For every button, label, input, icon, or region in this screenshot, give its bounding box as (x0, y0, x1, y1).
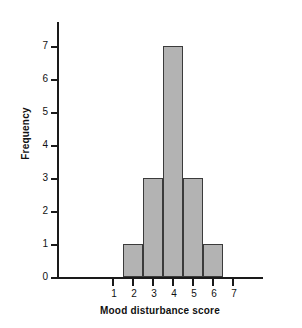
histogram-bar (203, 244, 223, 277)
x-tick-4 (172, 279, 174, 286)
x-tick-label-7: 7 (226, 288, 242, 299)
x-tick-2 (132, 279, 134, 286)
histogram-chart: Frequency 7 6 5 4 3 2 1 0 1 2 3 4 5 6 7 … (0, 0, 302, 328)
x-tick-label-4: 4 (166, 288, 182, 299)
histogram-bar (123, 244, 143, 277)
x-tick-label-5: 5 (186, 288, 202, 299)
x-tick-label-3: 3 (146, 288, 162, 299)
x-tick-6 (212, 279, 214, 286)
x-tick-label-6: 6 (206, 288, 222, 299)
x-tick-label-1: 1 (106, 288, 122, 299)
x-tick-7 (232, 279, 234, 286)
x-tick-3 (152, 279, 154, 286)
x-tick-1 (112, 279, 114, 286)
histogram-bar (183, 178, 203, 277)
x-tick-label-2: 2 (126, 288, 142, 299)
x-axis-title: Mood disturbance score (57, 305, 263, 316)
x-tick-5 (192, 279, 194, 286)
histogram-bar (143, 178, 163, 277)
histogram-bar (163, 46, 183, 277)
